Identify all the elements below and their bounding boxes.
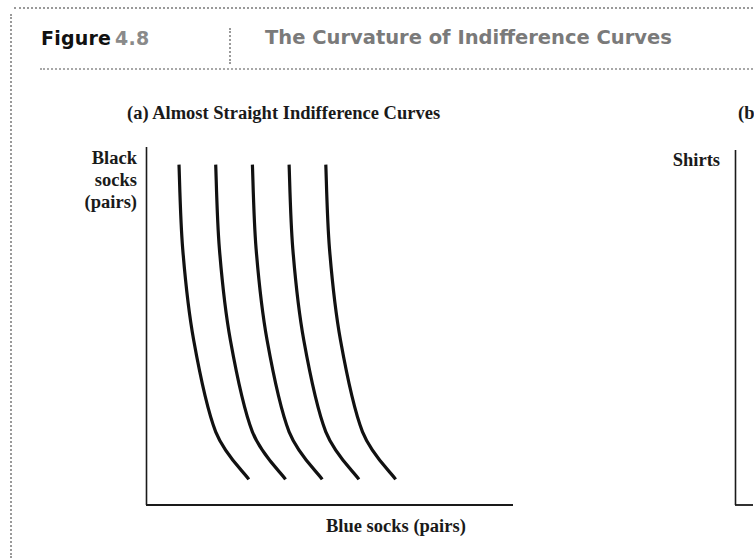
indifference-curve-ic5 — [326, 165, 396, 480]
indifference-curves — [179, 165, 396, 480]
indifference-curve-ic3 — [252, 165, 322, 480]
indifference-curve-ic1 — [179, 165, 249, 480]
indifference-curve-ic2 — [216, 165, 286, 480]
panel-a-axes — [146, 147, 513, 505]
panel-b-axes — [735, 150, 753, 505]
indifference-curve-ic4 — [289, 165, 359, 480]
